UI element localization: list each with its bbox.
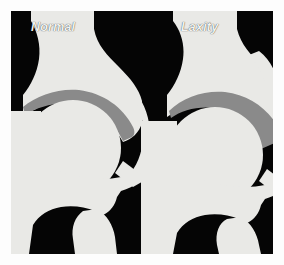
laxity-femoral-shaft [216,217,261,254]
hip-comparison-figure: Normal Laxity [0,0,284,265]
hip-anatomy-diagram [11,11,273,254]
normal-hip-group [11,11,150,254]
illustration-panel: Normal Laxity [11,11,273,254]
label-laxity: Laxity [181,20,218,34]
normal-femoral-shaft [72,209,117,254]
label-normal: Normal [31,20,75,34]
laxity-hip-group [141,11,273,254]
